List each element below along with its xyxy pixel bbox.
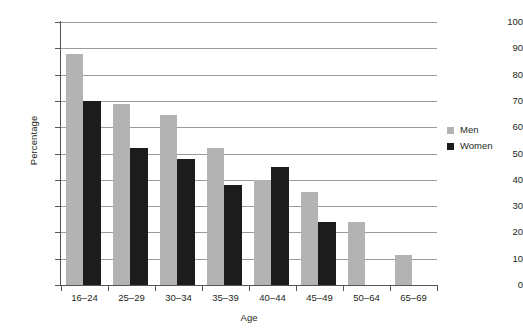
y-tick-label: 80 [471, 70, 523, 80]
x-axis-title: Age [61, 312, 437, 323]
legend-label: Men [460, 125, 478, 135]
bar-women-2 [177, 159, 195, 285]
legend-swatch-icon [447, 127, 454, 134]
x-tick-mark [437, 285, 438, 291]
x-tick-label: 50–64 [343, 293, 390, 303]
legend-label: Women [460, 141, 493, 151]
legend: MenWomen [447, 122, 493, 154]
x-tick-mark [155, 285, 156, 291]
bar-men-5 [301, 192, 319, 285]
bar-women-4 [271, 167, 289, 285]
x-tick-label: 16–24 [61, 293, 108, 303]
legend-swatch-icon [447, 143, 454, 150]
gridline [61, 22, 437, 23]
bar-women-1 [130, 148, 148, 285]
x-tick-mark [249, 285, 250, 291]
x-tick-label: 40–44 [249, 293, 296, 303]
x-tick-mark [343, 285, 344, 291]
x-tick-label: 35–39 [202, 293, 249, 303]
bar-men-7 [395, 255, 413, 285]
bar-men-2 [160, 115, 178, 285]
legend-item-men[interactable]: Men [447, 122, 493, 138]
bar-men-6 [348, 222, 366, 285]
y-tick-label: 70 [471, 96, 523, 106]
x-tick-label: 25–29 [108, 293, 155, 303]
bar-men-4 [254, 180, 272, 285]
bar-women-3 [224, 185, 242, 285]
bar-men-3 [207, 148, 225, 285]
x-tick-mark [390, 285, 391, 291]
bar-chart: Percentage 0102030405060708090100 16–242… [0, 0, 523, 334]
x-tick-label: 65–69 [390, 293, 437, 303]
y-axis-title: Percentage [28, 86, 39, 196]
gridline [61, 48, 437, 49]
y-tick-label: 40 [471, 175, 523, 185]
plot-area [61, 22, 437, 285]
y-tick-label: 90 [471, 43, 523, 53]
gridline [61, 75, 437, 76]
x-tick-mark [296, 285, 297, 291]
bar-men-0 [66, 54, 84, 285]
y-tick-label: 30 [471, 201, 523, 211]
bar-women-5 [318, 222, 336, 285]
x-tick-label: 30–34 [155, 293, 202, 303]
x-tick-mark [202, 285, 203, 291]
bar-women-0 [83, 101, 101, 285]
legend-item-women[interactable]: Women [447, 138, 493, 154]
x-tick-mark [61, 285, 62, 291]
y-tick-label: 20 [471, 227, 523, 237]
y-tick-label: 100 [471, 17, 523, 27]
x-tick-label: 45–49 [296, 293, 343, 303]
bar-men-1 [113, 104, 131, 285]
gridline [61, 101, 437, 102]
y-tick-label: 10 [471, 254, 523, 264]
y-tick-label: 0 [471, 280, 523, 290]
x-tick-mark [108, 285, 109, 291]
